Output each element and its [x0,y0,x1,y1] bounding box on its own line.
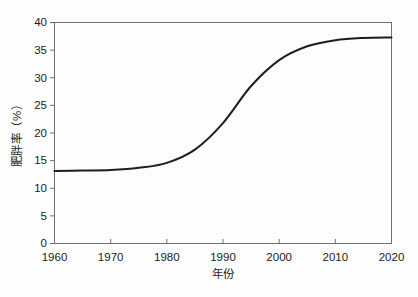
x-axis-label: 年份 [212,265,235,281]
x-tick-label: 2000 [266,251,292,263]
x-tick-label: 1960 [42,251,68,263]
line-chart-svg: 1960197019801990200020102020051015202530… [0,0,418,297]
y-tick-label: 25 [34,99,47,111]
x-tick-label: 2020 [379,251,405,263]
y-tick-label: 30 [34,72,47,84]
y-tick-label: 0 [41,237,47,249]
y-tick-label: 40 [34,16,47,28]
x-tick-label: 1980 [154,251,180,263]
obesity-trend-chart: 1960197019801990200020102020051015202530… [0,0,418,297]
x-tick-label: 2010 [323,251,349,263]
y-axis-label: 肥胖率（%） [8,99,24,167]
x-tick-label: 1990 [210,251,236,263]
x-tick-label: 1970 [98,251,124,263]
y-tick-label: 20 [34,127,47,139]
plot-frame [55,23,392,244]
y-tick-label: 15 [34,154,47,166]
y-tick-label: 5 [41,210,47,222]
y-tick-label: 35 [34,44,47,56]
y-tick-label: 10 [34,182,47,194]
